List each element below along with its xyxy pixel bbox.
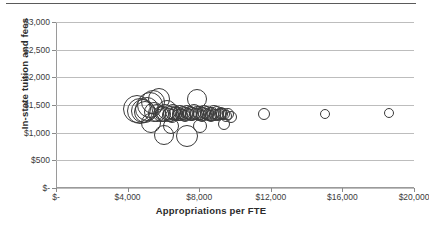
y-tick-mark [52,160,56,161]
data-bubble [218,118,230,130]
x-tick-label: $4,000 [115,192,141,202]
y-tick-mark [52,133,56,134]
y-tick-label: $- [42,183,50,193]
gridline-y [56,160,414,161]
x-tick-label: $12,000 [255,192,286,202]
plot-area [56,22,414,188]
data-bubble [193,119,207,133]
gridline-y [56,22,414,23]
top-divider-rule [6,3,416,4]
y-tick-mark [52,77,56,78]
y-tick-label: $1,500 [24,100,50,110]
y-tick-label: $500 [31,155,50,165]
x-tick-label: $20,000 [399,192,429,202]
gridline-y [56,188,414,189]
x-tick-label: $16,000 [327,192,358,202]
data-bubble [384,108,394,118]
data-bubble [141,113,161,133]
x-tick-label: $- [52,192,60,202]
gridline-y [56,105,414,106]
y-tick-label: $1,000 [24,128,50,138]
y-tick-mark [52,50,56,51]
gridline-y [56,77,414,78]
gridline-y [56,50,414,51]
y-tick-label: $3,000 [24,17,50,27]
y-tick-label: $2,000 [24,72,50,82]
x-tick-label: $8,000 [186,192,212,202]
y-tick-mark [52,105,56,106]
y-axis-title-holder: In-state tuition and fees [6,18,22,188]
data-bubble [320,109,330,119]
y-tick-label: $2,500 [24,45,50,55]
gridline-y [56,133,414,134]
x-axis-title: Appropriations per FTE [0,205,422,216]
data-bubble [258,108,270,120]
data-bubble [163,118,179,134]
y-tick-mark [52,22,56,23]
